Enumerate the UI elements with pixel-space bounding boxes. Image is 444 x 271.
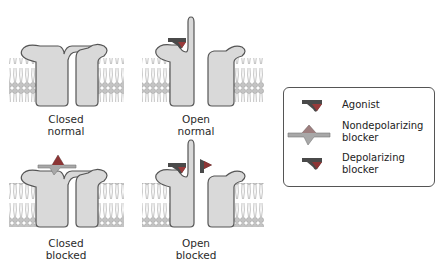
- panel-open-blocked: Open blocked: [138, 135, 268, 245]
- panel-caption: Open: [151, 237, 241, 249]
- open-channel-diagram: [138, 0, 268, 115]
- panel-open-normal: Open normal: [138, 0, 268, 115]
- panel-caption: Closed: [21, 237, 111, 249]
- panel-caption: blocked: [21, 249, 111, 261]
- open-blocked-diagram: [138, 135, 268, 245]
- closed-channel-diagram: [0, 0, 130, 115]
- panel-caption: Open: [151, 113, 241, 125]
- membrane-right: [97, 58, 124, 102]
- closed-blocked-diagram: [0, 135, 130, 245]
- panel-closed-blocked: Closed blocked: [0, 135, 130, 245]
- nondepolarizing-blocker-icon: [286, 124, 332, 146]
- legend-item-nondepolarizing-blocker: Nondepolarizing blocker: [284, 118, 434, 146]
- panel-caption: blocked: [151, 249, 241, 261]
- legend: Agonist Nondepolarizing blocker Depolari…: [283, 87, 435, 187]
- legend-item-depolarizing-blocker: Depolarizing blocker: [284, 150, 434, 178]
- panel-closed-normal: Closed normal: [0, 0, 130, 115]
- membrane-left: [9, 58, 39, 102]
- agonist-icon: [298, 98, 338, 114]
- panel-caption: Closed: [21, 113, 111, 125]
- depolarizing-blocker-icon: [298, 156, 338, 172]
